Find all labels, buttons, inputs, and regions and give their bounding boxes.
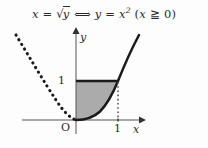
- x-axis-label: x: [133, 123, 139, 136]
- y-axis-tick-label-1: 1: [58, 74, 65, 87]
- y-axis-label: y: [80, 31, 86, 44]
- parabola-left-branch-dotted: [16, 35, 76, 120]
- parabola-plot: [0, 0, 208, 148]
- figure-canvas: x = √y ⟺ y = x2 (x ≧ 0) y x O 1 1: [0, 0, 208, 148]
- y-axis-arrow-icon: [72, 27, 79, 34]
- origin-label: O: [61, 121, 70, 134]
- x-axis-tick-label-1: 1: [114, 122, 121, 135]
- x-axis-arrow-icon: [139, 116, 146, 123]
